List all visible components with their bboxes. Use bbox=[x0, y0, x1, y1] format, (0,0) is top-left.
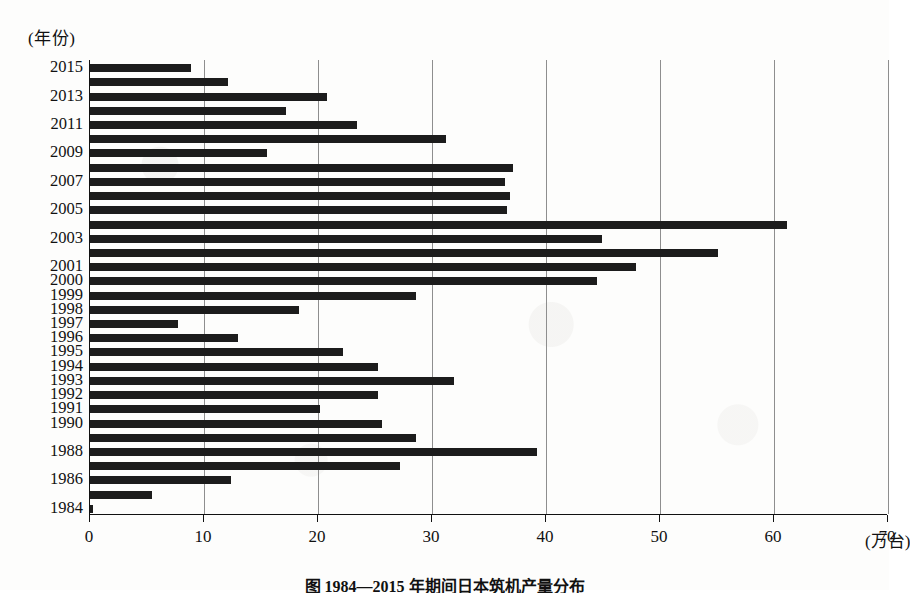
bar-row bbox=[90, 221, 888, 229]
bar-row bbox=[90, 192, 888, 200]
x-tick-label-0: 0 bbox=[85, 527, 94, 547]
bar-2007 bbox=[90, 178, 505, 186]
bar-row bbox=[90, 462, 888, 470]
bar-row bbox=[90, 64, 888, 72]
x-axis-unit-label: (万台) bbox=[865, 527, 910, 552]
bar-1996 bbox=[90, 334, 238, 342]
bar-row bbox=[90, 121, 888, 129]
gridline-70 bbox=[888, 60, 889, 514]
bar-row bbox=[90, 78, 888, 86]
y-tick-label-2009: 2009 bbox=[11, 144, 83, 161]
y-tick-label-2007: 2007 bbox=[11, 173, 83, 190]
bar-1984 bbox=[90, 505, 93, 513]
x-tick-20 bbox=[317, 515, 318, 522]
bar-1995 bbox=[90, 348, 343, 356]
figure-caption: 图 1984—2015 年期间日本筑机产量分布 bbox=[0, 577, 889, 593]
bar-2002 bbox=[90, 249, 718, 257]
x-tick-label-30: 30 bbox=[423, 527, 440, 547]
bar-2004 bbox=[90, 221, 787, 229]
y-axis-tick-labels: 2015201320112009200720052003200120001999… bbox=[0, 60, 83, 515]
bar-row bbox=[90, 320, 888, 328]
bar-row bbox=[90, 206, 888, 214]
x-tick-60 bbox=[773, 515, 774, 522]
bar-2003 bbox=[90, 235, 602, 243]
y-tick-label-2015: 2015 bbox=[11, 59, 83, 76]
y-tick-label-1984: 1984 bbox=[11, 500, 83, 517]
x-tick-label-60: 60 bbox=[765, 527, 782, 547]
bar-2006 bbox=[90, 192, 510, 200]
bar-1994 bbox=[90, 363, 378, 371]
bar-2001 bbox=[90, 263, 636, 271]
bar-2000 bbox=[90, 277, 597, 285]
x-tick-50 bbox=[659, 515, 660, 522]
bar-1998 bbox=[90, 306, 299, 314]
bar-row bbox=[90, 149, 888, 157]
bar-row bbox=[90, 263, 888, 271]
bar-2014 bbox=[90, 78, 228, 86]
x-tick-label-50: 50 bbox=[651, 527, 668, 547]
bar-2010 bbox=[90, 135, 446, 143]
bar-1991 bbox=[90, 405, 320, 413]
y-tick-label-1986: 1986 bbox=[11, 471, 83, 488]
y-tick-label-1990: 1990 bbox=[11, 415, 83, 432]
bar-2012 bbox=[90, 107, 286, 115]
y-tick-label-2013: 2013 bbox=[11, 88, 83, 105]
bar-2009 bbox=[90, 149, 267, 157]
bar-1993 bbox=[90, 377, 454, 385]
bar-1988 bbox=[90, 448, 537, 456]
y-tick-label-2003: 2003 bbox=[11, 230, 83, 247]
bar-1987 bbox=[90, 462, 400, 470]
bar-1986 bbox=[90, 476, 231, 484]
bar-1997 bbox=[90, 320, 178, 328]
bar-2015 bbox=[90, 64, 191, 72]
bar-1990 bbox=[90, 420, 382, 428]
bar-row bbox=[90, 135, 888, 143]
chart-plot-area bbox=[89, 60, 887, 515]
x-tick-0 bbox=[89, 515, 90, 522]
bar-2008 bbox=[90, 164, 513, 172]
x-tick-30 bbox=[431, 515, 432, 522]
bar-row bbox=[90, 391, 888, 399]
bar-row bbox=[90, 93, 888, 101]
x-tick-label-20: 20 bbox=[309, 527, 326, 547]
bar-1985 bbox=[90, 491, 152, 499]
x-axis-ticks bbox=[89, 515, 887, 523]
bar-row bbox=[90, 235, 888, 243]
y-axis-unit-label: (年份) bbox=[28, 24, 75, 49]
bar-row bbox=[90, 292, 888, 300]
y-tick-label-1988: 1988 bbox=[11, 443, 83, 460]
bar-row bbox=[90, 164, 888, 172]
bar-row bbox=[90, 505, 888, 513]
bar-row bbox=[90, 306, 888, 314]
bar-1989 bbox=[90, 434, 416, 442]
x-tick-label-10: 10 bbox=[195, 527, 212, 547]
bar-row bbox=[90, 434, 888, 442]
x-tick-label-40: 40 bbox=[537, 527, 554, 547]
bar-row bbox=[90, 348, 888, 356]
bar-1992 bbox=[90, 391, 378, 399]
bar-row bbox=[90, 405, 888, 413]
y-tick-label-2005: 2005 bbox=[11, 201, 83, 218]
bar-row bbox=[90, 377, 888, 385]
bar-row bbox=[90, 491, 888, 499]
bar-row bbox=[90, 363, 888, 371]
bar-row bbox=[90, 334, 888, 342]
bar-row bbox=[90, 448, 888, 456]
bar-2013 bbox=[90, 93, 327, 101]
bar-1999 bbox=[90, 292, 416, 300]
bar-row bbox=[90, 178, 888, 186]
bar-row bbox=[90, 420, 888, 428]
y-tick-label-2011: 2011 bbox=[11, 116, 83, 133]
bar-2011 bbox=[90, 121, 357, 129]
x-tick-40 bbox=[545, 515, 546, 522]
x-tick-10 bbox=[203, 515, 204, 522]
bar-row bbox=[90, 107, 888, 115]
x-tick-70 bbox=[887, 515, 888, 522]
bar-row bbox=[90, 249, 888, 257]
x-axis-tick-labels: 010203040506070(万台) bbox=[89, 527, 887, 553]
bar-row bbox=[90, 277, 888, 285]
bar-row bbox=[90, 476, 888, 484]
bar-2005 bbox=[90, 206, 507, 214]
